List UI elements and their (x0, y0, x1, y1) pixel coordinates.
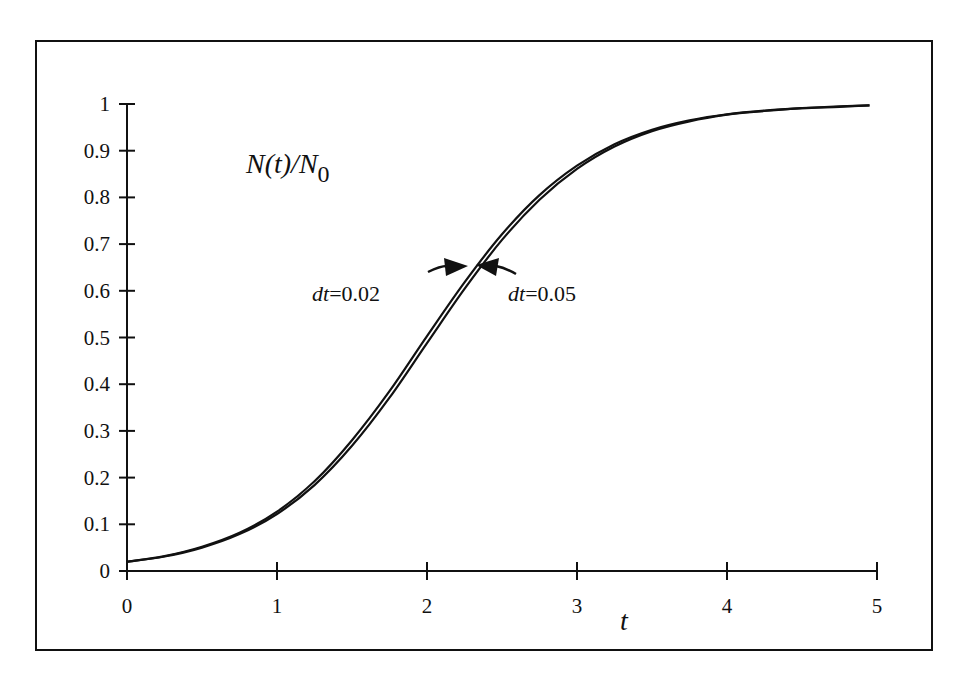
y-tick-label: 0.8 (84, 185, 110, 209)
y-tick-labels: 00.10.20.30.40.50.60.70.80.91 (84, 92, 111, 583)
annotation-dt-002-label: dt=0.02 (312, 281, 380, 306)
y-tick-label: 0.1 (84, 512, 110, 536)
data-series (127, 105, 870, 561)
y-tick-label: 0.3 (84, 419, 110, 443)
annotation-dt-005-label: dt=0.05 (508, 281, 576, 306)
chart-title: N(t)/N0 (245, 148, 330, 187)
x-tick-label: 1 (272, 594, 283, 618)
y-tick-label: 0.6 (84, 279, 110, 303)
arrowhead-icon (444, 258, 468, 276)
series-line-dt-0-05 (127, 105, 870, 561)
y-tick-label: 0.2 (84, 466, 110, 490)
y-tick-label: 0.7 (84, 232, 110, 256)
x-tick-label: 2 (422, 594, 433, 618)
arrow-icon (428, 266, 447, 272)
x-tick-label: 3 (572, 594, 583, 618)
x-tick-label: 0 (122, 594, 133, 618)
annotation-dt-005: dt=0.05 (476, 258, 576, 306)
arrow-icon (496, 266, 516, 274)
y-tick-label: 0.5 (84, 326, 110, 350)
y-tick-label: 1 (100, 92, 111, 116)
figure-frame (36, 41, 932, 650)
series-line-dt-0-02 (127, 105, 870, 561)
chart-title-main: N(t)/N (245, 148, 319, 179)
axes (119, 104, 877, 580)
x-tick-labels: 012345 (122, 594, 883, 618)
annotation-dt-002: dt=0.02 (312, 258, 468, 306)
chart-figure: 00.10.20.30.40.50.60.70.80.91 012345 N(t… (0, 0, 974, 686)
chart-title-subscript: 0 (318, 161, 330, 187)
y-tick-label: 0.9 (84, 139, 110, 163)
x-axis-label: t (620, 605, 629, 636)
y-tick-label: 0 (100, 559, 111, 583)
x-tick-label: 4 (722, 594, 733, 618)
y-tick-label: 0.4 (84, 372, 111, 396)
x-tick-label: 5 (872, 594, 883, 618)
